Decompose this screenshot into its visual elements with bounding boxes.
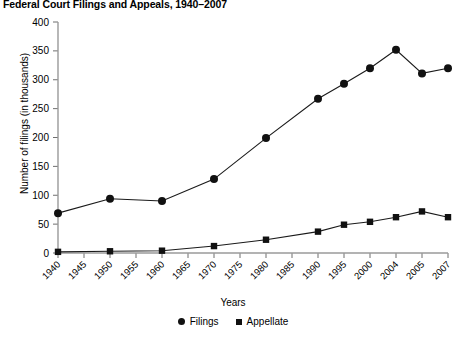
legend-item-filings: Filings [178,316,219,327]
series-layer [54,46,452,255]
svg-text:1975: 1975 [222,259,245,282]
svg-text:150: 150 [32,161,49,172]
svg-text:1945: 1945 [66,259,89,282]
svg-text:350: 350 [32,45,49,56]
square-marker-icon [236,319,242,325]
x-axis-ticks: 1940194519501955196019651970197519801985… [40,253,453,281]
plot-area: 050100150200250300350400 194019451950195… [0,0,466,337]
svg-text:1970: 1970 [196,259,219,282]
svg-text:1950: 1950 [92,259,115,282]
svg-text:300: 300 [32,74,49,85]
svg-text:2004: 2004 [378,259,401,282]
svg-text:0: 0 [43,248,49,259]
svg-text:50: 50 [38,219,50,230]
svg-text:1980: 1980 [248,259,271,282]
svg-text:1990: 1990 [300,259,323,282]
x-axis-label: Years [0,297,466,308]
legend-label-appellate: Appellate [247,316,289,327]
svg-text:1955: 1955 [118,259,141,282]
legend-label-filings: Filings [190,316,219,327]
svg-text:2005: 2005 [404,259,427,282]
svg-text:1985: 1985 [274,259,297,282]
svg-text:400: 400 [32,17,49,28]
svg-text:100: 100 [32,190,49,201]
y-axis-ticks: 050100150200250300350400 [32,17,58,259]
legend-item-appellate: Appellate [236,316,289,327]
svg-text:1960: 1960 [144,259,167,282]
chart-container: Federal Court Filings and Appeals, 1940–… [0,0,466,337]
svg-text:2000: 2000 [352,259,375,282]
svg-text:1965: 1965 [170,259,193,282]
svg-text:1940: 1940 [40,259,63,282]
circle-marker-icon [178,318,185,325]
svg-text:200: 200 [32,132,49,143]
svg-text:2007: 2007 [430,259,453,282]
chart-legend: Filings Appellate [0,316,466,327]
svg-text:250: 250 [32,103,49,114]
svg-text:1995: 1995 [326,259,349,282]
